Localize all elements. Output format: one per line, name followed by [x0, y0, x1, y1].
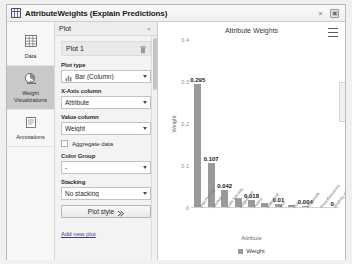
panel-title: Plot: [59, 25, 71, 32]
y-axis-tick: 0.3: [175, 79, 189, 85]
x-axis-column-value: Attribute: [65, 99, 89, 106]
chevron-down-icon: [143, 192, 147, 195]
field-x-axis-column: X-Axis column Attribute: [61, 88, 151, 109]
aggregate-data-row[interactable]: Aggregate data: [61, 140, 151, 147]
y-axis-tick: 0.4: [175, 37, 189, 43]
chart-pie-icon: [22, 71, 40, 87]
window-controls: × ▣: [316, 9, 341, 18]
plot-type-value: Bar (Column): [75, 73, 114, 80]
y-axis-tick: 0.1: [175, 163, 189, 169]
value-column-value: Weight: [65, 125, 85, 132]
legend-label: Weight: [246, 248, 265, 254]
sidebar-item-data[interactable]: Data: [7, 29, 54, 66]
panel-scrollbar[interactable]: [151, 36, 157, 260]
window-title: AttributeWeights (Explain Predictions): [25, 9, 167, 18]
sidebar-item-annotations[interactable]: Annotations: [7, 110, 54, 147]
table-chart-icon: [11, 8, 21, 18]
bar[interactable]: [194, 84, 201, 208]
sidebar-item-weight-visualizations[interactable]: Weight Visualizations: [7, 66, 54, 110]
bar-column[interactable]: 0.01: [272, 40, 285, 208]
right-edge-tab[interactable]: [339, 82, 345, 122]
plot-style-label: Plot style: [88, 208, 114, 215]
panel-scrollbar-thumb[interactable]: [153, 38, 157, 90]
chevron-down-icon: [143, 101, 147, 104]
stacking-select[interactable]: No stacking: [61, 187, 151, 200]
color-group-value: -: [65, 164, 67, 171]
plot-type-select[interactable]: Bar (Column): [61, 70, 151, 83]
field-label: X-Axis column: [61, 88, 151, 94]
table-icon: [22, 34, 40, 50]
sidebar-item-label: Weight Visualizations: [9, 90, 52, 104]
sidebar-item-label: Annotations: [9, 134, 52, 141]
field-label: Value column: [61, 114, 151, 120]
screenshot-root: AttributeWeights (Explain Predictions) ×…: [0, 0, 352, 264]
window-body: Data Weight Visualizations: [7, 22, 345, 260]
field-color-group: Color Group -: [61, 153, 151, 174]
panel-body: Plot 1 Plot type: [55, 36, 157, 260]
bar-column[interactable]: 0.042: [218, 40, 231, 208]
stacking-value: No stacking: [65, 190, 99, 197]
chart-legend: Weight: [158, 248, 345, 254]
x-axis-column-select[interactable]: Attribute: [61, 96, 151, 109]
add-new-plot-link[interactable]: Add new plot: [61, 231, 151, 237]
bar-column[interactable]: 0.004: [299, 40, 312, 208]
chevron-down-icon: [143, 166, 147, 169]
bar-value-label: 0.107: [204, 156, 219, 162]
bar-column[interactable]: [231, 40, 244, 208]
bar-column[interactable]: 0.018: [245, 40, 258, 208]
y-axis-tick: 0.2: [175, 121, 189, 127]
chart-menu-icon[interactable]: [328, 28, 338, 37]
field-value-column: Value column Weight: [61, 114, 151, 135]
plot-options-panel: Plot × Plot 1: [55, 22, 158, 260]
legend-swatch: [238, 249, 243, 254]
field-label: Stacking: [61, 179, 151, 185]
color-group-select[interactable]: -: [61, 161, 151, 174]
bar-value-label: 0.295: [190, 77, 205, 83]
chevron-down-icon: [143, 75, 147, 78]
value-column-select[interactable]: Weight: [61, 122, 151, 135]
field-label: Color Group: [61, 153, 151, 159]
chevron-down-icon: [143, 127, 147, 130]
bar-column[interactable]: 0.107: [204, 40, 217, 208]
x-axis-title: Attribute: [158, 235, 345, 241]
plot-area: Weight 0.40.30.20.10 0.2950.1070.0420.01…: [191, 40, 339, 208]
view-rail: Data Weight Visualizations: [7, 22, 55, 260]
bar-chart-icon: [65, 68, 72, 86]
y-axis-tick: 0: [175, 205, 189, 211]
close-icon[interactable]: ×: [145, 25, 153, 33]
close-icon[interactable]: ×: [316, 9, 325, 18]
bar-value-label: 0.042: [217, 183, 232, 189]
bar-column[interactable]: [312, 40, 325, 208]
chart-area: Attribute Weights Weight 0.40.30.20.10 0…: [158, 22, 345, 260]
application-window: AttributeWeights (Explain Predictions) ×…: [6, 4, 346, 260]
plot-style-button[interactable]: Plot style: [61, 205, 151, 218]
x-axis-tick-labels: Total PhenolsAlcoholColor IntensityMagne…: [191, 206, 339, 230]
title-bar: AttributeWeights (Explain Predictions) ×…: [7, 5, 345, 22]
restore-icon[interactable]: ▣: [330, 9, 339, 18]
aggregate-data-label: Aggregate data: [72, 141, 113, 147]
bar-series: 0.2950.1070.0420.0180.010.0040: [191, 40, 339, 208]
field-stacking: Stacking No stacking: [61, 179, 151, 200]
aggregate-data-checkbox[interactable]: [61, 140, 68, 147]
chart-title: Attribute Weights: [158, 27, 345, 34]
field-plot-type: Plot type Bar (Column): [61, 62, 151, 83]
sidebar-item-label: Data: [9, 53, 52, 60]
chevron-right-icon: [117, 203, 124, 221]
field-label: Plot type: [61, 62, 151, 68]
plot-card-title: Plot 1: [66, 45, 84, 52]
bar-column[interactable]: 0.295: [191, 40, 204, 208]
bar-column[interactable]: [258, 40, 271, 208]
plot-card[interactable]: Plot 1: [61, 41, 151, 56]
trash-icon[interactable]: [140, 40, 146, 58]
bar-column[interactable]: [285, 40, 298, 208]
panel-header: Plot ×: [55, 22, 157, 36]
notes-icon: [22, 115, 40, 131]
